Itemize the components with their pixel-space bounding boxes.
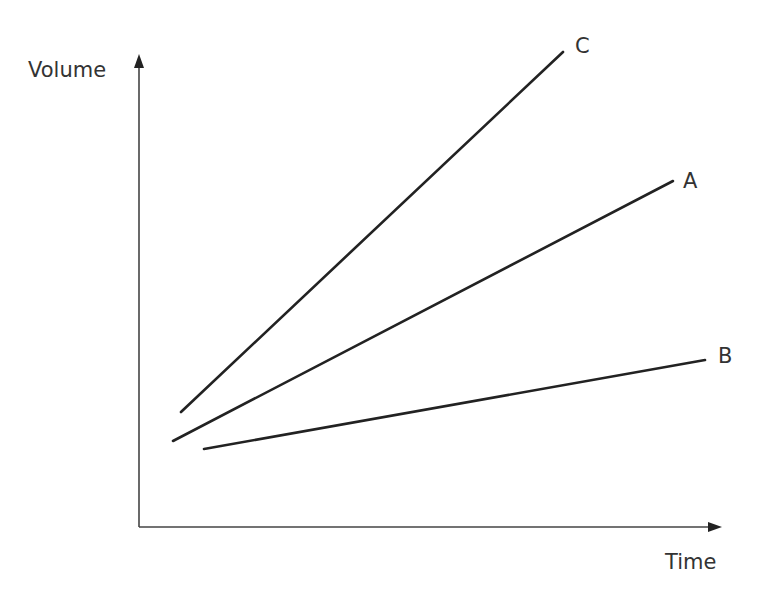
x-axis-arrow-icon xyxy=(708,522,722,532)
y-axis-arrow-icon xyxy=(134,54,144,68)
series-label-a: A xyxy=(683,169,698,193)
series-layer: CAB xyxy=(173,34,732,449)
series-line-b xyxy=(204,360,705,449)
series-label-c: C xyxy=(575,34,590,58)
y-axis-title: Volume xyxy=(28,58,106,82)
chart-canvas: Volume Time CAB xyxy=(0,0,763,596)
series-label-b: B xyxy=(718,344,732,368)
series-line-c xyxy=(181,52,563,412)
x-axis-title: Time xyxy=(664,550,716,574)
series-line-a xyxy=(173,181,673,441)
